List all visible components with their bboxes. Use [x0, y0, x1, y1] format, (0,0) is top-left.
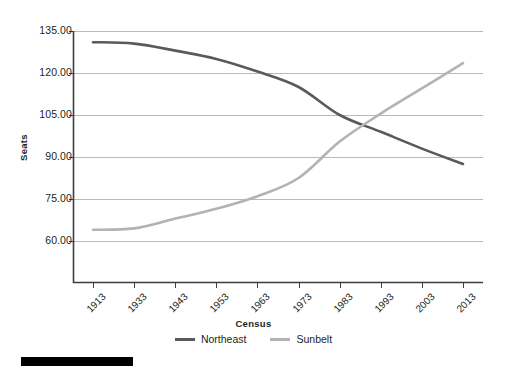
x-axis-title: Census: [0, 318, 507, 329]
x-axis-tick-labels: 1913193319431953196319731983199320032013: [0, 0, 507, 370]
bottom-black-bar: [21, 357, 133, 366]
legend-label-northeast: Northeast: [201, 333, 247, 345]
legend-entry-northeast[interactable]: Northeast: [175, 333, 247, 345]
legend-swatch-northeast-icon: [175, 338, 195, 341]
legend-entry-sunbelt[interactable]: Sunbelt: [270, 333, 332, 345]
legend-label-sunbelt: Sunbelt: [296, 333, 332, 345]
chart-screenshot: 60.0075.0090.00105.00120.00135.00 Seats …: [0, 0, 507, 370]
chart-legend: NortheastSunbelt: [0, 333, 507, 345]
legend-swatch-sunbelt-icon: [270, 338, 290, 341]
line-chart-figure: 60.0075.0090.00105.00120.00135.00 Seats …: [0, 0, 507, 370]
